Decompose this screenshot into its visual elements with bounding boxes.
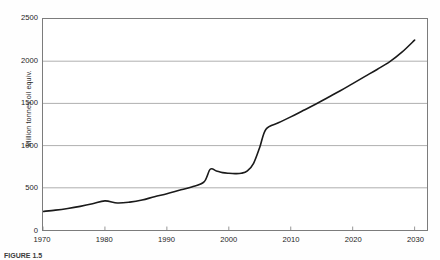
figure-caption: FIGURE 1.5: [4, 252, 304, 260]
x-axis-tick-labels: 1970 1980 1990 2000 2010 2020 2030: [0, 0, 440, 260]
x-tick-2020: 2020: [345, 236, 362, 244]
x-tick-2010: 2010: [283, 236, 300, 244]
figure-container: Million tonnes oil equiv. 0 500 1000 150…: [0, 0, 440, 260]
x-tick-1980: 1980: [96, 236, 113, 244]
x-tick-1990: 1990: [158, 236, 175, 244]
x-tick-2030: 2030: [407, 236, 424, 244]
x-tick-2000: 2000: [220, 236, 237, 244]
x-tick-1970: 1970: [34, 236, 51, 244]
